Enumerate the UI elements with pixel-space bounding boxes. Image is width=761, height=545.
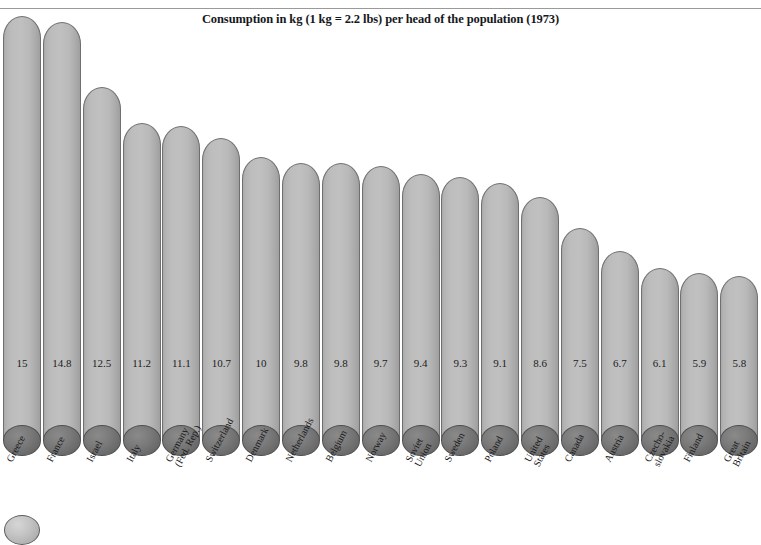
bar-value-label: 14.8: [43, 358, 81, 369]
bar-group: 10.7Switzerland: [202, 0, 240, 532]
bar-value-label: 15: [3, 358, 41, 369]
bar-cylinder: [322, 163, 360, 440]
bar-cylinder: [123, 123, 161, 440]
bar-value-label: 6.1: [641, 358, 679, 369]
bar-value-label: 11.2: [123, 358, 161, 369]
bar-value-label: 10.7: [202, 358, 240, 369]
bar-value-label: 5.9: [680, 358, 718, 369]
bar-value-label: 9.3: [441, 358, 479, 369]
bar-group: 9.1Poland: [481, 0, 519, 532]
bar-cylinder: [202, 138, 240, 440]
bar-group: 9.8Belgium: [322, 0, 360, 532]
bar-cylinder: [641, 268, 679, 440]
bar-value-label: 12.5: [83, 358, 121, 369]
bar-group: 8.6United States: [521, 0, 559, 532]
bar-value-label: 6.7: [601, 358, 639, 369]
bar-group: 5.8Great Britain: [720, 0, 758, 532]
bar-cylinder: [282, 163, 320, 440]
bar-cylinder: [441, 177, 479, 440]
bar-cylinder: [402, 174, 440, 440]
bar-value-label: 8.6: [521, 358, 559, 369]
bar-group: 9.7Norway: [362, 0, 400, 532]
bar-group: 15Greece: [3, 0, 41, 532]
bar-cylinder: [3, 16, 41, 440]
bar-group: 11.1Germany (Fed. Rep.): [162, 0, 200, 532]
legend-bullet-icon: [4, 515, 40, 545]
bar-group: 11.2Italy: [123, 0, 161, 532]
bar-group: 9.8Netherlands: [282, 0, 320, 532]
bar-cylinder: [481, 183, 519, 440]
bar-group: 9.3Sweden: [441, 0, 479, 532]
bar-value-label: 10: [242, 358, 280, 369]
bar-cylinder: [43, 22, 81, 440]
bar-value-label: 5.8: [720, 358, 758, 369]
bar-group: 10Denmark: [242, 0, 280, 532]
bar-cylinder: [561, 228, 599, 440]
bar-cylinder: [83, 87, 121, 440]
bar-value-label: 9.8: [322, 358, 360, 369]
bar-value-label: 9.7: [362, 358, 400, 369]
bar-value-label: 7.5: [561, 358, 599, 369]
bar-value-label: 9.8: [282, 358, 320, 369]
bar-cylinder: [362, 166, 400, 440]
bar-cylinder: [601, 251, 639, 440]
bar-value-label: 9.4: [402, 358, 440, 369]
bar-group: 14.8France: [43, 0, 81, 532]
bar-group: 7.5Canada: [561, 0, 599, 532]
bar-group: 6.7Austria: [601, 0, 639, 532]
bar-value-label: 9.1: [481, 358, 519, 369]
bar-cylinder: [242, 157, 280, 440]
bar-value-label: 11.1: [162, 358, 200, 369]
bar-group: 9.4Soviet Union: [402, 0, 440, 532]
bar-group: 5.9Finland: [680, 0, 718, 532]
bar-group: 6.1Czecho- slovakia: [641, 0, 679, 532]
bar-cylinder: [521, 197, 559, 440]
bar-group: 12.5Israel: [83, 0, 121, 532]
bar-cylinder: [162, 126, 200, 440]
